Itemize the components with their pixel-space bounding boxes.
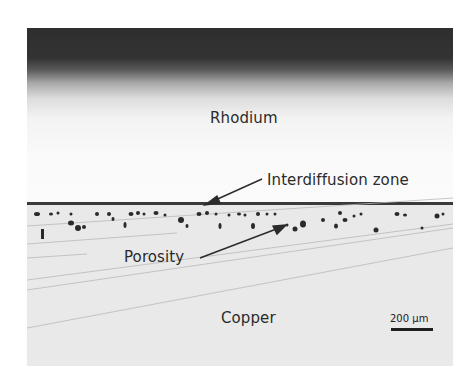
pore — [215, 213, 218, 216]
pore — [70, 213, 73, 216]
pore — [300, 221, 306, 228]
scratch-line — [27, 224, 453, 280]
scratch-line — [27, 228, 453, 290]
label-porosity: Porosity — [124, 248, 184, 266]
label-interdiffusion-zone: Interdiffusion zone — [267, 171, 409, 189]
scale-bar — [391, 328, 433, 331]
pore — [95, 212, 99, 216]
pore — [49, 213, 53, 216]
pore — [266, 213, 269, 216]
pore — [197, 212, 202, 216]
pore — [244, 214, 247, 217]
pore — [274, 213, 277, 216]
pore — [256, 212, 260, 216]
porosity-pores — [34, 211, 445, 239]
pore — [321, 218, 325, 222]
pore — [129, 212, 134, 216]
pore — [338, 211, 342, 215]
pore — [435, 214, 440, 219]
pore — [186, 224, 189, 228]
pore — [178, 217, 184, 223]
pore — [251, 223, 255, 229]
pore — [403, 214, 407, 217]
pore — [154, 211, 159, 215]
porosity-arrow-line — [200, 228, 279, 258]
label-copper: Copper — [221, 309, 276, 327]
pore — [112, 217, 115, 221]
pore — [353, 215, 356, 218]
pore — [205, 211, 209, 215]
pore — [421, 227, 424, 230]
pore — [107, 212, 111, 216]
pore — [124, 222, 127, 228]
pore — [374, 228, 379, 233]
pore — [143, 213, 146, 216]
porosity-arrow-head — [273, 225, 286, 234]
pore — [334, 224, 338, 229]
pore — [34, 212, 40, 216]
pore — [360, 213, 363, 216]
pore — [219, 223, 222, 229]
pore — [395, 212, 400, 216]
scratch-line — [27, 198, 453, 226]
pore — [293, 227, 298, 232]
pore — [57, 212, 60, 215]
pore — [164, 214, 167, 217]
pore — [82, 225, 86, 229]
pore — [343, 218, 348, 222]
scratch-line — [27, 254, 87, 258]
pore — [136, 211, 140, 215]
annotation-arrows — [200, 179, 286, 258]
scale-bar-label: 200 µm — [390, 313, 428, 324]
interdiffusion-arrow-head — [205, 196, 220, 205]
pore — [75, 225, 81, 231]
pore — [237, 213, 241, 216]
pore — [41, 229, 44, 239]
micrograph-frame: Rhodium Interdiffusion zone Porosity Cop… — [27, 28, 453, 366]
pore — [68, 221, 74, 226]
pore — [228, 214, 231, 217]
label-rhodium: Rhodium — [210, 109, 278, 127]
scratch-line — [27, 233, 177, 244]
pore — [442, 213, 445, 216]
